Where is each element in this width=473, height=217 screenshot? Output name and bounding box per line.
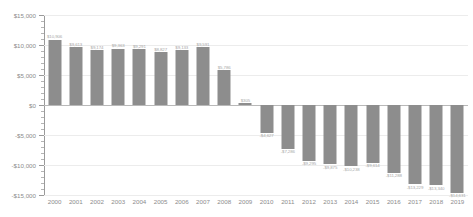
bar-value-label: -$9,295 <box>302 161 316 166</box>
bar[interactable] <box>239 103 252 105</box>
x-axis-tick-label: 2006 <box>175 198 189 206</box>
bar-slot: -$11,288 <box>383 15 404 195</box>
bar-slot: $9,133 <box>171 15 192 195</box>
bar[interactable] <box>175 50 188 105</box>
bar[interactable] <box>408 105 421 184</box>
x-axis-tick-label: 2018 <box>429 198 443 206</box>
y-axis-tick-label: -$10,000 <box>0 162 36 169</box>
bar-slot: -$10,238 <box>341 15 362 195</box>
x-axis-tick-label: 2017 <box>408 198 422 206</box>
bar-value-label: -$10,238 <box>343 167 360 172</box>
bar-value-label: -$11,288 <box>386 173 402 178</box>
bar[interactable] <box>387 105 400 173</box>
bar-slot: $9,174 <box>86 15 107 195</box>
y-axis-tick-label: $15,000 <box>0 12 36 19</box>
x-axis-tick-label: 2003 <box>111 198 125 206</box>
bar[interactable] <box>260 105 273 133</box>
x-axis-tick-label: 2016 <box>387 198 401 206</box>
y-axis-tick-label: -$15,000 <box>0 192 36 199</box>
bar[interactable] <box>48 40 61 105</box>
bar-value-label: -$9,875 <box>323 165 337 170</box>
bars-layer: $10,906$9,613$9,174$9,363$9,291$8,827$9,… <box>44 15 468 195</box>
y-axis-tick-label: $10,000 <box>0 42 36 49</box>
bar-slot: -$9,875 <box>320 15 341 195</box>
bar-slot: -$14,631 <box>447 15 468 195</box>
x-axis-tick-label: 2011 <box>281 198 294 206</box>
bar-value-label: $9,613 <box>69 42 82 47</box>
bar-slot: -$13,340 <box>426 15 447 195</box>
bar-value-label: -$9,614 <box>365 163 379 168</box>
bar-value-label: -$13,229 <box>407 185 424 190</box>
bar-value-label: -$7,286 <box>281 149 295 154</box>
bar-value-label: $5,786 <box>218 65 231 70</box>
x-axis-tick-label: 2013 <box>323 198 337 206</box>
bar-slot: $305 <box>235 15 256 195</box>
bar-slot: -$7,286 <box>277 15 298 195</box>
bar[interactable] <box>324 105 337 164</box>
bar[interactable] <box>112 49 125 105</box>
x-axis-labels: 2000200120022003200420052006200720082009… <box>44 198 468 212</box>
bar-slot: $9,291 <box>129 15 150 195</box>
bar-value-label: $10,906 <box>47 34 62 39</box>
bar[interactable] <box>345 105 358 166</box>
bar-value-label: $9,174 <box>91 45 104 50</box>
bar-slot: $10,906 <box>44 15 65 195</box>
x-axis-tick-label: 2010 <box>260 198 274 206</box>
bar-value-label: $9,291 <box>133 44 146 49</box>
bar-slot: $5,786 <box>214 15 235 195</box>
bar-value-label: $9,591 <box>197 42 210 47</box>
bar-value-label: -$4,627 <box>259 133 273 138</box>
plot-area: $10,906$9,613$9,174$9,363$9,291$8,827$9,… <box>44 15 468 195</box>
bar-slot: $8,827 <box>150 15 171 195</box>
bar-chart: $15,000$10,000$5,000$0-$5,000-$10,000-$1… <box>0 0 473 217</box>
bar[interactable] <box>90 50 103 105</box>
y-axis-tick-label: $0 <box>0 102 36 109</box>
bar-value-label: $305 <box>241 98 250 103</box>
x-axis-tick-label: 2019 <box>451 198 465 206</box>
bar[interactable] <box>366 105 379 163</box>
x-axis-tick-label: 2004 <box>133 198 147 206</box>
x-axis-tick-label: 2000 <box>48 198 62 206</box>
bar-slot: -$4,627 <box>256 15 277 195</box>
bar-value-label: $9,133 <box>175 45 188 50</box>
bar-value-label: $8,827 <box>154 47 167 52</box>
bar[interactable] <box>430 105 443 185</box>
bar[interactable] <box>69 47 82 105</box>
x-axis-tick-label: 2014 <box>345 198 359 206</box>
bar-slot: $9,591 <box>192 15 213 195</box>
x-axis-tick-label: 2007 <box>196 198 210 206</box>
bar-slot: -$13,229 <box>404 15 425 195</box>
bar[interactable] <box>218 70 231 105</box>
x-axis-tick-label: 2009 <box>239 198 253 206</box>
bar[interactable] <box>451 105 464 193</box>
x-axis-tick-label: 2002 <box>90 198 104 206</box>
y-axis-tick-label: -$5,000 <box>0 132 36 139</box>
y-axis-tick-label: $5,000 <box>0 72 36 79</box>
x-axis-tick-label: 2005 <box>154 198 168 206</box>
x-axis-tick-label: 2015 <box>366 198 380 206</box>
bar-slot: $9,613 <box>65 15 86 195</box>
x-axis-tick-label: 2012 <box>302 198 316 206</box>
bar[interactable] <box>281 105 294 149</box>
bar[interactable] <box>196 47 209 105</box>
x-axis-tick-label: 2008 <box>217 198 231 206</box>
gridline <box>44 195 468 196</box>
x-axis-tick-label: 2001 <box>69 198 83 206</box>
bar[interactable] <box>133 49 146 105</box>
bar-value-label: $9,363 <box>112 43 125 48</box>
bar-slot: $9,363 <box>108 15 129 195</box>
bar-slot: -$9,614 <box>362 15 383 195</box>
bar-value-label: -$13,340 <box>428 186 445 191</box>
bar[interactable] <box>154 52 167 105</box>
bar[interactable] <box>302 105 315 161</box>
bar-slot: -$9,295 <box>298 15 319 195</box>
